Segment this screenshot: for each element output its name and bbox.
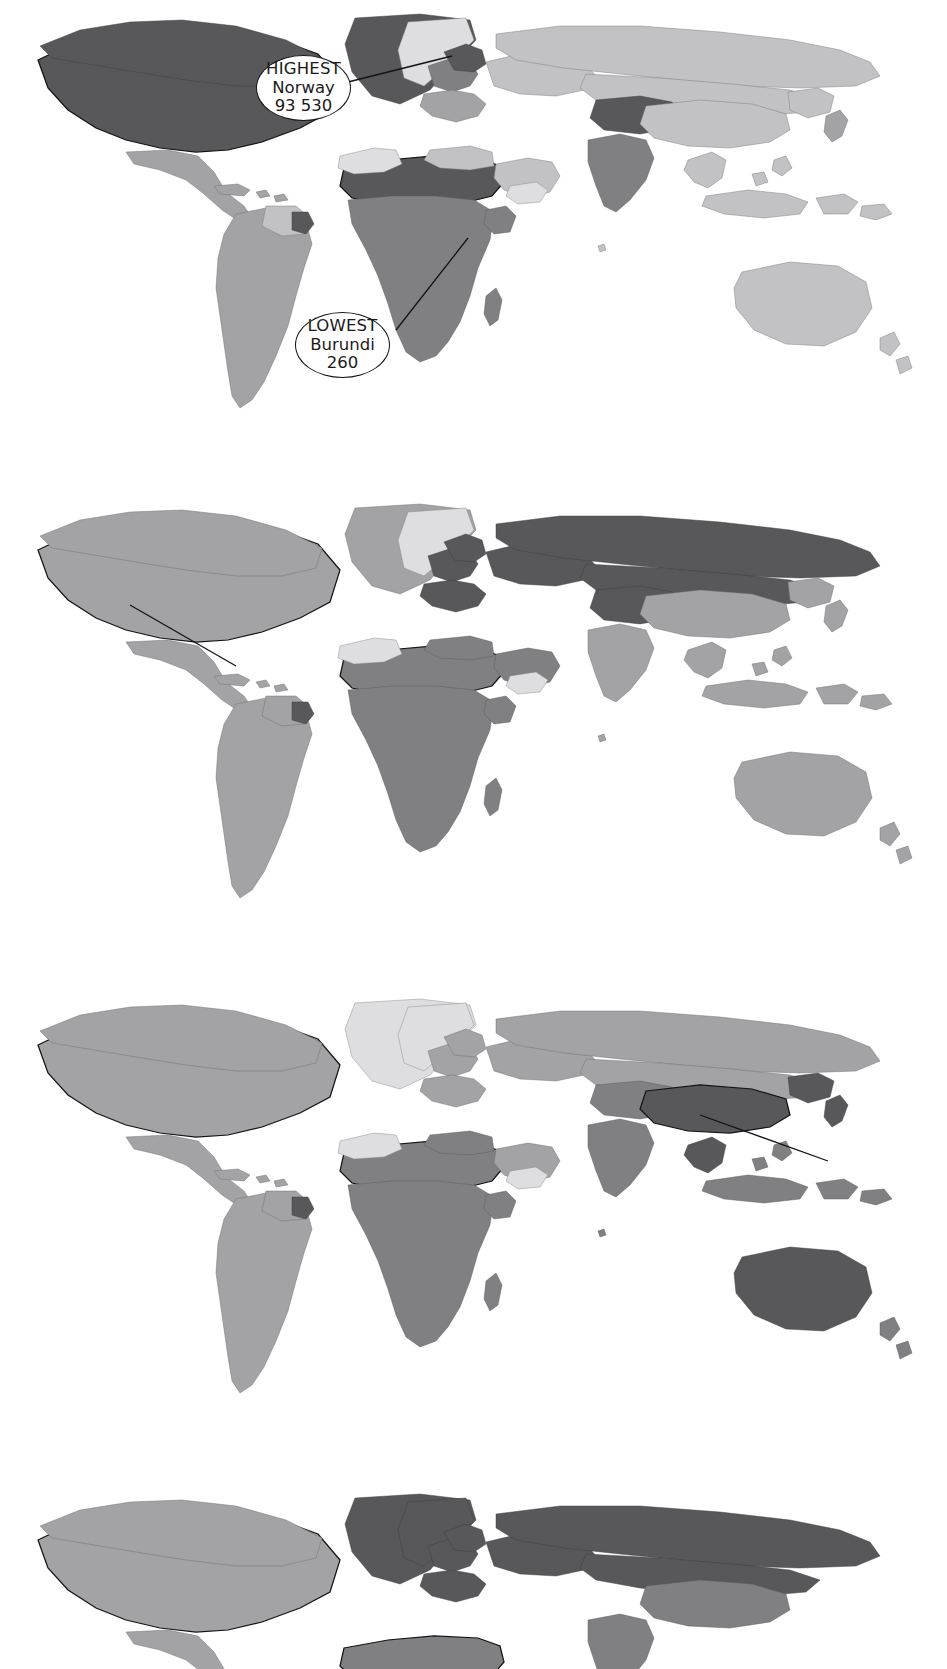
callout-place: Burundi <box>310 336 375 355</box>
landmasses-3 <box>38 999 912 1393</box>
figure-page: HIGHEST Norway 93 530 LOWEST Burundi 260 <box>0 0 947 1669</box>
landmasses-2 <box>38 504 912 898</box>
map-panel-1: HIGHEST Norway 93 530 LOWEST Burundi 260 <box>0 0 947 455</box>
world-map-4 <box>0 1480 947 1669</box>
callout-value: 93 530 <box>275 97 333 116</box>
map-panel-2: LOWEST many <0.01% HIGHEST USA 12.0% <box>0 490 947 945</box>
landmasses-1 <box>38 14 912 408</box>
callout-rank: HIGHEST <box>266 60 341 79</box>
map-panel-4 <box>0 1480 947 1669</box>
world-map-1 <box>0 0 947 455</box>
callout-value: 260 <box>327 354 359 373</box>
world-map-2 <box>0 490 947 945</box>
callout-panel1-highest: HIGHEST Norway 93 530 <box>256 55 351 121</box>
map-panel-3: LOWEST many 0 HIGHEST China 2620.3 <box>0 985 947 1440</box>
landmasses-4 <box>38 1494 880 1669</box>
world-map-3 <box>0 985 947 1440</box>
callout-rank: LOWEST <box>307 317 377 336</box>
callout-place: Norway <box>272 79 335 98</box>
callout-panel1-lowest: LOWEST Burundi 260 <box>295 312 390 378</box>
